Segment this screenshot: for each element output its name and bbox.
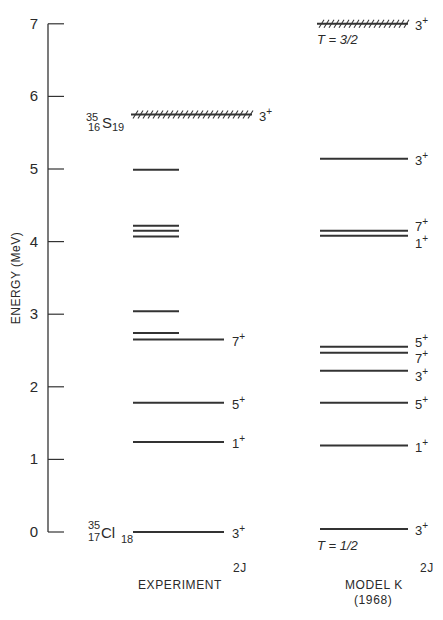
spin-label: 1+ <box>232 433 245 451</box>
experiment-column-label: EXPERIMENT <box>138 578 222 592</box>
model-column-sublabel: (1968) <box>354 593 392 607</box>
level-line: 3+ <box>133 523 245 541</box>
level-line: 1+ <box>133 433 245 451</box>
level-line: 5+ <box>320 394 428 412</box>
level-line: 5+ <box>133 394 245 412</box>
level-line: 5+ <box>320 332 428 350</box>
spin-label: 3+ <box>415 366 428 384</box>
tick-label: 3 <box>30 305 38 322</box>
tick-label: 6 <box>30 87 38 104</box>
energy-level-diagram: 01234567 ENERGY (MeV) 35 16 S 19 35 17 C… <box>0 0 443 620</box>
spin-label: 7+ <box>415 348 428 366</box>
tick-label: 4 <box>30 233 38 250</box>
nucleus-label-cl35: 35 17 Cl 18 <box>88 519 133 545</box>
model-spin-header: 2J <box>420 561 434 575</box>
atomic-number: 17 <box>88 531 100 543</box>
element-symbol: Cl <box>101 524 115 541</box>
level-line: 7+ <box>320 348 428 366</box>
energy-axis: 01234567 <box>30 15 64 540</box>
neutron-number: 18 <box>121 533 133 545</box>
tick-label: 7 <box>30 15 38 32</box>
level-line: 3+ <box>320 366 428 384</box>
level-line: 3+ <box>317 15 428 33</box>
experiment-spin-header: 2J <box>233 561 247 575</box>
spin-label: 5+ <box>232 394 245 412</box>
level-line: 3+ <box>320 520 428 538</box>
spin-label: 1+ <box>415 233 428 251</box>
nucleus-label-s35: 35 16 S 19 <box>86 111 124 133</box>
level-line: 1+ <box>320 233 428 251</box>
isospin-label-upper: T = 3/2 <box>317 32 359 47</box>
model-levels: 3+1+5+3+7+5+1+7+3+3+ <box>317 15 428 538</box>
tick-label: 1 <box>30 450 38 467</box>
spin-label: 1+ <box>415 437 428 455</box>
level-line: 3+ <box>320 150 428 168</box>
neutron-number: 19 <box>112 121 124 133</box>
mass-number: 35 <box>88 519 100 531</box>
spin-label: 7+ <box>232 331 245 349</box>
tick-label: 5 <box>30 160 38 177</box>
spin-label: 7+ <box>415 216 428 234</box>
experiment-levels: 3+1+5+7+3+ <box>131 106 272 541</box>
spin-label: 3+ <box>259 106 272 124</box>
tick-label: 0 <box>30 523 38 540</box>
spin-label: 3+ <box>415 150 428 168</box>
level-line: 1+ <box>320 437 428 455</box>
element-symbol: S <box>102 114 112 131</box>
spin-label: 3+ <box>415 520 428 538</box>
tick-label: 2 <box>30 378 38 395</box>
spin-label: 3+ <box>232 523 245 541</box>
model-column-label: MODEL K <box>345 578 403 592</box>
axis-title: ENERGY (MeV) <box>9 232 23 324</box>
level-line: 7+ <box>320 216 428 234</box>
spin-label: 5+ <box>415 394 428 412</box>
isospin-label-lower: T = 1/2 <box>317 538 359 553</box>
level-line: 3+ <box>131 106 272 124</box>
spin-label: 3+ <box>415 15 428 33</box>
atomic-number: 16 <box>88 121 100 133</box>
